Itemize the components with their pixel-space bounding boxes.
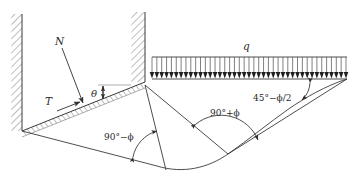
angle-right-label: 45°−ϕ/2	[253, 93, 291, 103]
load-arrowhead	[155, 72, 160, 79]
angle-arc-middle	[196, 115, 258, 140]
load-arrowhead	[256, 72, 261, 79]
load-arrowhead	[237, 72, 242, 79]
failure-mechanism	[22, 79, 347, 170]
surcharge-label: q	[243, 40, 250, 52]
load-arrowhead	[198, 72, 203, 79]
angle-middle-label: 90°+ϕ	[210, 108, 240, 118]
wedge-base-line	[22, 131, 157, 166]
load-arrowhead	[271, 72, 276, 79]
load-arrowhead	[315, 72, 320, 79]
load-arrowhead	[227, 72, 232, 79]
load-arrowhead	[208, 72, 213, 79]
load-arrowhead	[300, 72, 305, 79]
load-arrowhead	[261, 72, 266, 79]
figure-canvas: θ N T q 90°−ϕ 90°+ϕ 45°−ϕ/2	[0, 0, 360, 179]
load-tick-group	[150, 57, 349, 79]
load-arrowhead	[222, 72, 227, 79]
slope-face	[22, 82, 145, 137]
load-arrowhead	[252, 72, 257, 79]
load-arrowhead	[305, 72, 310, 79]
load-arrowhead	[339, 72, 344, 79]
load-arrowhead	[344, 72, 349, 79]
load-arrowhead	[276, 72, 281, 79]
log-spiral-curve	[157, 79, 347, 170]
load-arrowhead	[281, 72, 286, 79]
theta-label: θ	[91, 88, 97, 99]
load-arrowhead	[159, 72, 164, 79]
load-arrowhead	[290, 72, 295, 79]
load-arrowhead	[247, 72, 252, 79]
load-arrowhead	[329, 72, 334, 79]
load-arrowhead	[164, 72, 169, 79]
tangential-force-label: T	[45, 95, 53, 107]
load-arrowhead	[184, 72, 189, 79]
load-arrowhead	[232, 72, 237, 79]
load-arrowhead	[310, 72, 315, 79]
load-arrowhead	[324, 72, 329, 79]
load-arrowhead	[242, 72, 247, 79]
load-arrowhead	[174, 72, 179, 79]
load-arrowhead	[169, 72, 174, 79]
normal-force-vector	[62, 48, 83, 103]
angle-left-label: 90°−ϕ	[104, 132, 134, 142]
radial-wedge-line	[145, 85, 166, 170]
load-arrowhead	[334, 72, 339, 79]
load-arrowhead	[179, 72, 184, 79]
load-arrowhead	[319, 72, 324, 79]
load-arrowhead	[213, 72, 218, 79]
load-arrowhead	[193, 72, 198, 79]
wedge-chord-line	[145, 85, 228, 154]
load-arrowhead	[203, 72, 208, 79]
load-arrowhead	[150, 72, 155, 79]
normal-force-label: N	[54, 35, 65, 47]
load-arrowhead	[286, 72, 291, 79]
load-arrowhead	[266, 72, 271, 79]
load-arrowhead	[189, 72, 194, 79]
distributed-load	[150, 57, 349, 79]
diagram-svg: θ N T q 90°−ϕ 90°+ϕ 45°−ϕ/2	[0, 0, 360, 179]
angle-arc-left	[133, 131, 157, 157]
load-arrowhead	[295, 72, 300, 79]
right-wall	[131, 12, 145, 82]
passive-wedge-face	[228, 79, 347, 154]
load-arrowhead	[218, 72, 223, 79]
left-wall	[11, 14, 22, 131]
